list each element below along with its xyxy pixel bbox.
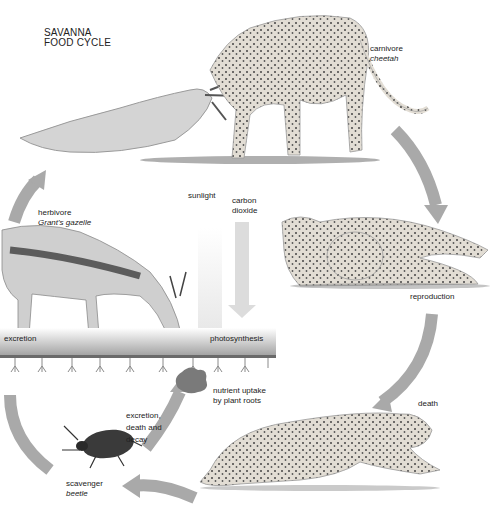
carbon-dioxide-label: carbon dioxide bbox=[232, 196, 257, 216]
arrow-carnivore-to-reproduction bbox=[395, 130, 436, 205]
nutrient-line-2: by plant roots bbox=[213, 396, 266, 406]
carnivore-label: carnivore cheetah bbox=[370, 44, 403, 64]
herbivore-role: herbivore bbox=[38, 208, 71, 217]
cheetah-mother-and-cub bbox=[282, 217, 490, 289]
co2-arrow-shaft bbox=[235, 222, 249, 307]
nutrient-uptake-label: nutrient uptake by plant roots bbox=[213, 386, 266, 406]
photosynthesis-label: photosynthesis bbox=[210, 334, 263, 344]
soil-line bbox=[0, 355, 276, 358]
decay-line-1: excretion, bbox=[126, 410, 162, 422]
death-label: death bbox=[418, 399, 438, 409]
herbivore-label: herbivore Grant's gazelle bbox=[38, 208, 91, 228]
herbivore-species: Grant's gazelle bbox=[38, 218, 91, 228]
arrow-herbivore-to-carnivore bbox=[14, 180, 38, 222]
arrow-scavenger-left bbox=[10, 395, 50, 470]
excretion-label: excretion bbox=[4, 334, 36, 344]
carnivore-role: carnivore bbox=[370, 44, 403, 53]
plant-roots bbox=[11, 358, 268, 372]
food-cycle-illustration bbox=[0, 0, 502, 513]
arrow-death-to-scavenger bbox=[132, 485, 195, 498]
title-line-2: FOOD CYCLE bbox=[44, 38, 111, 48]
nutrient-blob bbox=[176, 367, 207, 393]
co2-arrow-head bbox=[228, 305, 256, 318]
cheetah-dying bbox=[200, 413, 440, 491]
arrow-reproduction-to-death bbox=[382, 314, 432, 402]
carnivore-species: cheetah bbox=[370, 54, 403, 64]
co2-line-1: carbon bbox=[232, 196, 257, 206]
sunlight-beam bbox=[198, 228, 222, 328]
scavenger-species: beetle bbox=[66, 489, 103, 499]
scavenger-label: scavenger beetle bbox=[66, 479, 103, 499]
scavenger-role: scavenger bbox=[66, 479, 103, 489]
decay-line-3: decay bbox=[126, 434, 162, 446]
diagram-title: SAVANNA FOOD CYCLE bbox=[44, 28, 111, 48]
decay-label: excretion, death and decay bbox=[126, 410, 162, 446]
co2-line-2: dioxide bbox=[232, 206, 257, 216]
decay-line-2: death and bbox=[126, 422, 162, 434]
nutrient-line-1: nutrient uptake bbox=[213, 386, 266, 396]
reproduction-label: reproduction bbox=[410, 292, 454, 302]
sunlight-label: sunlight bbox=[188, 191, 216, 201]
